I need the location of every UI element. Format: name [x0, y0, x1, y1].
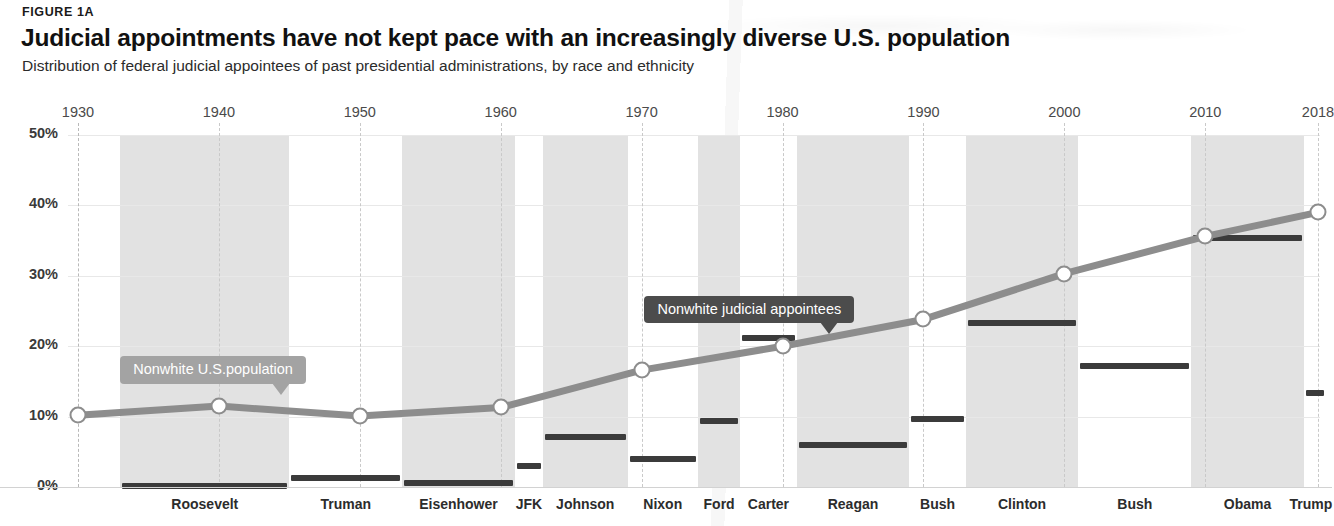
- y-tick-label-0: 0%: [37, 477, 58, 493]
- population-marker-1950: [351, 407, 368, 424]
- president-label-jfk-3: JFK: [516, 496, 542, 512]
- y-tick-label-50: 50%: [29, 125, 58, 141]
- population-marker-1960: [492, 399, 509, 416]
- x-year-label-2018: 2018: [1302, 104, 1334, 120]
- x-year-label-1970: 1970: [625, 104, 657, 120]
- callout-pointer-icon: [820, 322, 838, 334]
- figure-bottom-rule: [0, 487, 1332, 488]
- president-label-bush-11: Bush: [1117, 496, 1152, 512]
- x-year-label-1990: 1990: [907, 104, 939, 120]
- x-year-label-1960: 1960: [485, 104, 517, 120]
- callout-nonwhite-judicial-appointees: Nonwhite judicial appointees: [644, 296, 854, 324]
- x-year-label-2000: 2000: [1048, 104, 1080, 120]
- population-marker-1970: [633, 362, 650, 379]
- president-label-obama-12: Obama: [1224, 496, 1271, 512]
- population-marker-1980: [774, 338, 791, 355]
- x-tick-2018: [1318, 123, 1319, 487]
- callout-population-text: Nonwhite U.S.population: [133, 361, 293, 377]
- population-marker-2000: [1056, 265, 1073, 282]
- population-marker-1990: [915, 311, 932, 328]
- president-label-johnson-4: Johnson: [556, 496, 614, 512]
- figure-number: FIGURE 1A: [22, 5, 94, 19]
- population-marker-1940: [210, 398, 227, 415]
- figure-headline: Judicial appointments have not kept pace…: [21, 24, 1010, 52]
- y-tick-label-30: 30%: [29, 266, 58, 282]
- x-year-label-1930: 1930: [62, 104, 94, 120]
- population-marker-1930: [70, 407, 87, 424]
- x-year-label-1950: 1950: [344, 104, 376, 120]
- president-label-reagan-8: Reagan: [828, 496, 879, 512]
- figure-subhead: Distribution of federal judicial appoint…: [22, 57, 694, 75]
- population-marker-2010: [1197, 228, 1214, 245]
- president-label-bush-9: Bush: [920, 496, 955, 512]
- callout-nonwhite-us-population: Nonwhite U.S.population: [120, 356, 306, 384]
- population-marker-2018: [1310, 204, 1327, 221]
- president-label-ford-6: Ford: [704, 496, 735, 512]
- x-year-label-1980: 1980: [766, 104, 798, 120]
- y-axis-labels: 0%10%20%30%40%50%: [0, 135, 70, 487]
- president-label-eisenhower-2: Eisenhower: [419, 496, 498, 512]
- president-label-roosevelt-0: Roosevelt: [171, 496, 238, 512]
- y-tick-label-40: 40%: [29, 195, 58, 211]
- y-tick-label-20: 20%: [29, 336, 58, 352]
- callout-pointer-icon: [272, 383, 290, 395]
- president-label-carter-7: Carter: [748, 496, 789, 512]
- x-year-label-2010: 2010: [1189, 104, 1221, 120]
- president-label-trump-13: Trump: [1290, 496, 1333, 512]
- president-label-clinton-10: Clinton: [998, 496, 1046, 512]
- president-label-truman-1: Truman: [320, 496, 371, 512]
- president-label-nixon-5: Nixon: [643, 496, 682, 512]
- y-tick-label-10: 10%: [29, 407, 58, 423]
- x-year-label-1940: 1940: [203, 104, 235, 120]
- callout-appointees-text: Nonwhite judicial appointees: [657, 301, 841, 317]
